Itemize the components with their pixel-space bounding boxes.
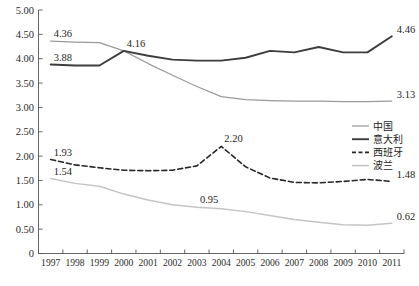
x-axis-label: 2002 (163, 257, 182, 268)
y-axis-label: 4.50 (16, 29, 34, 40)
value-label: 3.88 (54, 52, 72, 63)
data-point-labels: 4.363.133.884.164.461.932.201.481.540.95… (54, 24, 416, 222)
x-axis-label: 2009 (333, 257, 352, 268)
series-line-2 (51, 36, 392, 65)
x-axis-label: 2011 (382, 257, 401, 268)
y-axis-label: 0 (29, 248, 34, 259)
series-line-4 (51, 179, 392, 226)
y-axis-label: 3.50 (16, 78, 34, 89)
value-label: 1.54 (54, 166, 73, 177)
series-line-1 (51, 41, 392, 101)
line-chart: 5.004.504.003.503.002.502.001.501.000.50… (0, 0, 419, 286)
legend-label: 西班牙 (373, 147, 403, 158)
y-axis-tick-marks (39, 10, 43, 254)
legend-label: 波兰 (373, 159, 393, 171)
value-label: 0.62 (397, 211, 415, 222)
x-axis-label: 1997 (41, 257, 60, 268)
x-axis-label: 2001 (139, 257, 158, 268)
value-label: 4.36 (54, 28, 72, 39)
value-label: 3.13 (397, 89, 415, 100)
x-axis-label: 2010 (358, 257, 377, 268)
value-label: 1.93 (54, 147, 72, 158)
y-axis-label: 1.00 (16, 199, 34, 210)
x-axis-label: 2004 (212, 257, 231, 268)
value-label: 2.20 (224, 133, 242, 144)
x-axis-tick-labels: 1997199819992000200120022003200420052006… (41, 257, 401, 268)
y-axis-tick-labels: 5.004.504.003.503.002.502.001.501.000.50… (16, 5, 34, 260)
data-series-group (51, 36, 392, 225)
y-axis-label: 0.50 (16, 224, 34, 235)
legend-label: 意大利 (373, 133, 403, 145)
y-axis-label: 1.50 (16, 175, 34, 186)
value-label: 0.95 (200, 194, 218, 205)
value-label: 1.48 (397, 169, 415, 180)
chart-legend: 中国意大利西班牙波兰 (352, 120, 403, 172)
x-axis-label: 2008 (309, 257, 328, 268)
x-axis-label: 2000 (114, 257, 133, 268)
y-axis-label: 4.00 (16, 53, 34, 64)
y-axis-label: 2.50 (16, 126, 34, 137)
x-axis-label: 2007 (285, 257, 304, 268)
legend-label: 中国 (373, 120, 393, 132)
value-label: 4.46 (397, 24, 415, 35)
x-axis-label: 2006 (260, 257, 279, 268)
y-axis-label: 5.00 (16, 5, 34, 16)
series-line-3 (51, 146, 392, 183)
y-axis-label: 2.00 (16, 151, 34, 162)
x-axis-label: 2005 (236, 257, 255, 268)
x-axis-label: 1998 (65, 257, 84, 268)
y-axis-label: 3.00 (16, 102, 34, 113)
x-axis-label: 2003 (187, 257, 206, 268)
x-axis-tick-marks (39, 250, 405, 254)
x-axis-label: 1999 (90, 257, 109, 268)
chart-canvas: 5.004.504.003.503.002.502.001.501.000.50… (0, 0, 419, 286)
value-label: 4.16 (127, 38, 145, 49)
